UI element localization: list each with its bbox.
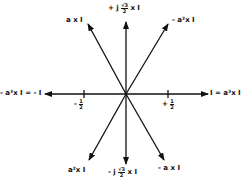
fraction-den: 2 — [121, 9, 128, 14]
arrow-minus-a2 — [126, 24, 168, 94]
label-left: - a³x I = - I — [0, 90, 41, 97]
neg-sign: - — [74, 100, 77, 108]
pos-sign: + — [162, 100, 168, 108]
fraction-den: 2 — [79, 105, 82, 110]
arrow-minus-a — [126, 94, 164, 160]
arrow-a2 — [89, 94, 126, 160]
label-down: - j √32 x I — [108, 167, 137, 178]
label-right: I = a³x I — [210, 90, 241, 97]
fraction-sqrt3-over-2: √32 — [118, 167, 125, 178]
fraction-den: 2 — [118, 173, 125, 178]
label-a2: a²x I — [68, 167, 85, 174]
label-neg-half: - 12 — [74, 99, 83, 110]
fraction-sqrt3-over-2: √32 — [121, 3, 128, 14]
phasor-diagram: + j √32 x I - a²x I a x I I = a³x I - a³… — [0, 0, 249, 184]
label-a: a x I — [66, 17, 83, 24]
label-down-suffix: x I — [127, 168, 137, 176]
fraction-one-half: 12 — [79, 99, 82, 110]
label-minus-a: - a x I — [158, 165, 180, 172]
fraction-den: 2 — [170, 105, 173, 110]
arrow-a — [88, 24, 126, 94]
label-up-suffix: x I — [130, 4, 140, 12]
label-down-prefix: - j — [108, 168, 116, 176]
label-up-prefix: + j — [108, 4, 119, 12]
label-minus-a2: - a²x I — [172, 17, 195, 24]
fraction-one-half: 12 — [170, 99, 173, 110]
label-pos-half: + 12 — [162, 99, 174, 110]
label-up: + j √32 x I — [108, 3, 140, 14]
